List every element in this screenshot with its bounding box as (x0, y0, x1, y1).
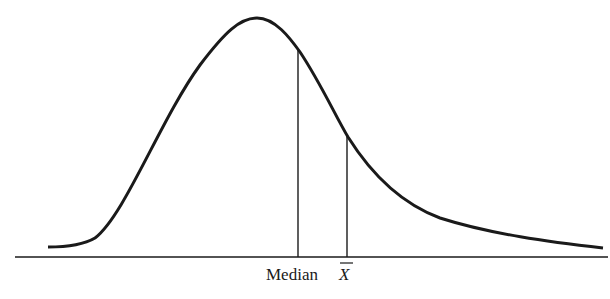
median-label: Median (266, 265, 318, 284)
skewed-distribution-diagram: Median X (0, 0, 610, 299)
mean-label: X (338, 265, 350, 284)
distribution-curve (48, 18, 603, 248)
